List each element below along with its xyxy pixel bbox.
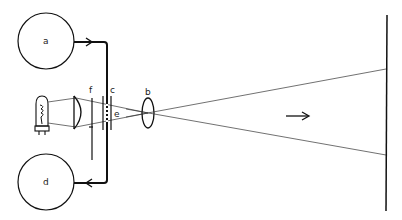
- condenser-lens: [74, 96, 81, 129]
- shutter-f: f: [89, 85, 93, 160]
- film-path: [74, 38, 107, 187]
- projector-diagram: a d f c e: [0, 0, 402, 220]
- label-c: c: [110, 85, 115, 95]
- projection-lens-b: b: [142, 87, 154, 128]
- light-beam: [126, 69, 386, 155]
- label-f: f: [89, 85, 93, 95]
- film-gate-c: c e: [103, 85, 120, 130]
- label-b: b: [145, 87, 151, 97]
- label-e: e: [114, 109, 120, 119]
- label-d: d: [43, 177, 49, 187]
- beam-direction-arrow-icon: [286, 112, 309, 120]
- reel-a: a: [18, 13, 74, 69]
- projection-screen: [386, 15, 387, 211]
- reel-d: d: [18, 154, 74, 210]
- lamp-bulb-icon: [35, 96, 49, 135]
- label-a: a: [43, 36, 49, 46]
